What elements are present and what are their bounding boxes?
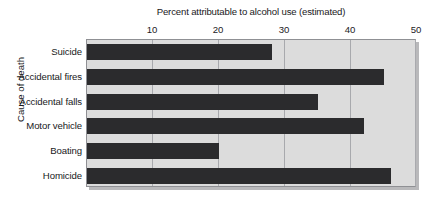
x-tick-label: 40 bbox=[345, 24, 356, 35]
bar-row bbox=[87, 44, 417, 60]
y-axis-category-labels: Suicide Accidental fires Accidental fall… bbox=[0, 39, 82, 187]
bar-row bbox=[87, 168, 417, 184]
category-label-accidental-falls: Accidental falls bbox=[0, 96, 82, 107]
bar-homicide bbox=[87, 168, 391, 184]
x-axis-tick-labels: 10 20 30 40 50 bbox=[0, 24, 429, 37]
bar-chart-figure: Percent attributable to alcohol use (est… bbox=[0, 0, 429, 203]
bar-row bbox=[87, 118, 417, 134]
category-label-motor-vehicle: Motor vehicle bbox=[0, 120, 82, 131]
bar-boating bbox=[87, 143, 219, 159]
category-label-suicide: Suicide bbox=[0, 46, 82, 57]
gridline bbox=[284, 40, 285, 186]
bar-accidental-falls bbox=[87, 94, 318, 110]
gridline bbox=[350, 40, 351, 186]
x-tick-label: 50 bbox=[411, 24, 422, 35]
gridline bbox=[152, 40, 153, 186]
category-label-boating: Boating bbox=[0, 145, 82, 156]
bar-row bbox=[87, 143, 417, 159]
x-tick-label: 20 bbox=[213, 24, 224, 35]
bar-row bbox=[87, 69, 417, 85]
x-tick-label: 30 bbox=[279, 24, 290, 35]
y-axis-title: Cause of death bbox=[15, 45, 26, 135]
plot-area bbox=[86, 39, 416, 187]
bar-row bbox=[87, 94, 417, 110]
category-label-homicide: Homicide bbox=[0, 170, 82, 181]
bar-suicide bbox=[87, 44, 272, 60]
category-label-accidental-fires: Accidental fires bbox=[0, 71, 82, 82]
gridline bbox=[218, 40, 219, 186]
bar-motor-vehicle bbox=[87, 118, 364, 134]
chart-axis-title: Percent attributable to alcohol use (est… bbox=[86, 6, 416, 17]
x-tick-label: 10 bbox=[147, 24, 158, 35]
bar-accidental-fires bbox=[87, 69, 384, 85]
